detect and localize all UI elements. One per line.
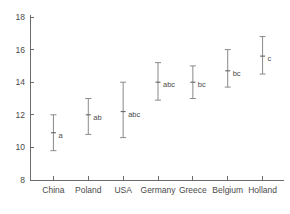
y-axis-tick-label: 16 <box>16 45 26 55</box>
data-point-group: abc <box>120 82 140 137</box>
x-axis-tick-label: Holland <box>248 185 277 195</box>
y-axis-tick-label: 8 <box>20 175 25 185</box>
y-axis: 81012141618 <box>16 12 34 185</box>
x-axis-tick-label: Belgium <box>212 185 243 195</box>
y-axis-tick-label: 10 <box>16 142 26 152</box>
group-annotation-label: a <box>58 131 63 140</box>
x-axis-tick-label: Poland <box>75 185 102 195</box>
x-axis-tick-label: USA <box>114 185 132 195</box>
group-annotation-label: bc <box>233 69 241 78</box>
y-axis-tick-label: 18 <box>16 12 26 22</box>
data-point-group: c <box>260 37 272 74</box>
data-point-group: a <box>50 115 63 151</box>
error-bar-chart: 81012141618 ChinaPolandUSAGermanyGreeceB… <box>0 0 290 214</box>
group-annotation-label: bc <box>198 80 206 89</box>
group-annotation-label: abc <box>163 80 175 89</box>
x-axis-tick-label: Germany <box>141 185 177 195</box>
y-axis-tick-label: 12 <box>16 110 26 120</box>
x-axis-tick-label: China <box>42 185 64 195</box>
x-axis-tick-label: Greece <box>179 185 207 195</box>
chart-container: 81012141618 ChinaPolandUSAGermanyGreeceB… <box>0 0 290 214</box>
data-point-group: ab <box>85 99 101 135</box>
data-series: aababcabcbcbcc <box>50 37 271 151</box>
x-axis: ChinaPolandUSAGermanyGreeceBelgiumHollan… <box>30 176 284 195</box>
data-point-group: bc <box>190 66 206 99</box>
group-annotation-label: abc <box>128 110 140 119</box>
data-point-group: bc <box>225 50 241 87</box>
y-axis-tick-label: 14 <box>16 77 26 87</box>
group-annotation-label: ab <box>93 113 101 122</box>
group-annotation-label: c <box>268 54 272 63</box>
data-point-group: abc <box>155 63 175 100</box>
